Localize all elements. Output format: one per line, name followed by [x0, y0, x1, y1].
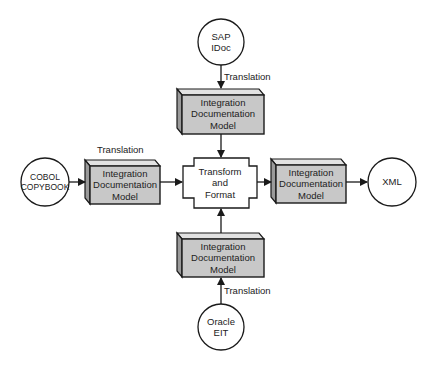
model-line-2: Documentation — [191, 252, 255, 263]
model-box-left-label: Integration Documentation Model — [93, 168, 157, 202]
oracle-line-1: Oracle — [207, 316, 235, 327]
cobol-translation-label: Translation — [97, 144, 144, 155]
model-line-1: Integration — [93, 168, 157, 179]
model-box-bottom-label: Integration Documentation Model — [191, 241, 255, 275]
cobol-copybook-label: COBOL COPYBOOK — [21, 172, 70, 192]
model-line-2: Documentation — [93, 179, 157, 190]
model-line-1: Integration — [279, 167, 343, 178]
model-line-1: Integration — [191, 97, 255, 108]
oracle-line-2: EIT — [207, 327, 235, 338]
model-line-1: Integration — [191, 241, 255, 252]
model-line-2: Documentation — [191, 108, 255, 119]
model-line-3: Model — [191, 264, 255, 275]
cobol-line-1: COBOL — [21, 172, 70, 182]
model-line-3: Model — [93, 191, 157, 202]
transform-line-3: Format — [199, 189, 242, 200]
cobol-line-2: COPYBOOK — [21, 182, 70, 192]
transform-line-1: Transform — [199, 166, 242, 177]
transform-format-label: Transform and Format — [199, 166, 242, 200]
model-box-right-label: Integration Documentation Model — [279, 167, 343, 201]
model-line-3: Model — [191, 120, 255, 131]
oracle-eit-label: Oracle EIT — [207, 316, 235, 339]
model-line-3: Model — [279, 190, 343, 201]
oracle-translation-label: Translation — [224, 285, 271, 296]
xml-line-1: XML — [382, 176, 402, 187]
xml-label: XML — [382, 176, 402, 187]
model-box-top-label: Integration Documentation Model — [191, 97, 255, 131]
transform-line-2: and — [199, 177, 242, 188]
sap-translation-label: Translation — [224, 71, 271, 82]
sap-line-1: SAP — [211, 31, 231, 42]
sap-line-2: IDoc — [211, 42, 231, 53]
model-line-2: Documentation — [279, 178, 343, 189]
sap-idoc-label: SAP IDoc — [211, 31, 231, 54]
